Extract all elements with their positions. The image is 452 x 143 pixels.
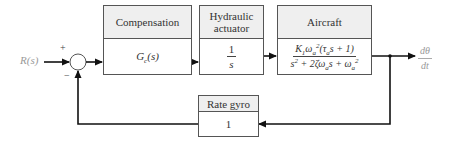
rate-gyro-transfer: 1 xyxy=(199,111,258,136)
rate-gyro-block: Rate gyro 1 xyxy=(198,95,259,137)
hydraulic-actuator-title: Hydraulic actuator xyxy=(200,6,263,39)
compensation-title: Compensation xyxy=(104,6,191,39)
denominator: s2 + 2ζωas + ωa2 xyxy=(289,57,361,70)
aircraft-title: Aircraft xyxy=(278,6,371,39)
compensation-transfer: Gc(s) xyxy=(104,38,191,74)
aircraft-block: Aircraft K1ωa2(τas + 1) s2 + 2ζωas + ωa2 xyxy=(277,5,372,75)
hydraulic-actuator-transfer: 1 s xyxy=(200,38,263,74)
rate-gyro-title: Rate gyro xyxy=(199,96,258,112)
title-line-2: actuator xyxy=(214,22,249,34)
minus-sign: − xyxy=(64,70,70,81)
numerator: K1ωa2(τas + 1) xyxy=(293,43,356,57)
hydraulic-actuator-block: Hydraulic actuator 1 s xyxy=(199,5,264,75)
title-line-1: Hydraulic xyxy=(210,10,254,22)
compensation-block: Compensation Gc(s) xyxy=(103,5,192,75)
numerator: 1 xyxy=(227,43,237,57)
plus-sign: + xyxy=(60,42,66,53)
output-denominator: dt xyxy=(419,59,431,72)
aircraft-transfer: K1ωa2(τas + 1) s2 + 2ζωas + ωa2 xyxy=(278,38,371,74)
denominator: s xyxy=(227,57,235,70)
input-label: R(s) xyxy=(20,54,38,66)
output-numerator: dθ xyxy=(418,45,432,59)
output-label: dθ dt xyxy=(418,44,432,72)
